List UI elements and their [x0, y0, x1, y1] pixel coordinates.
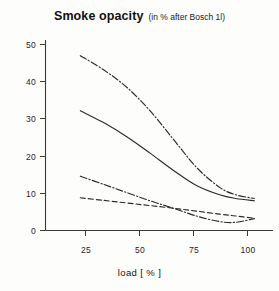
x-ticks-group — [86, 231, 248, 237]
x-tick-label-75: 75 — [180, 245, 208, 255]
y-tick-label-50: 50 — [14, 40, 36, 50]
y-tick-label-20: 20 — [14, 152, 36, 162]
curve-upper-solid — [80, 111, 254, 201]
curves-group — [80, 56, 254, 223]
y-tick-label-30: 30 — [14, 114, 36, 124]
y-tick-label-0: 0 — [14, 226, 36, 236]
chart-figure: Smoke opacity(in % after Bosch 1l) — [0, 0, 279, 291]
x-tick-label-25: 25 — [72, 245, 100, 255]
y-ticks-group — [40, 45, 46, 231]
axes-group — [46, 40, 274, 231]
y-tick-label-40: 40 — [14, 77, 36, 87]
curve-upper-dash-dot — [80, 56, 254, 199]
x-tick-label-100: 100 — [234, 245, 262, 255]
y-tick-label-10: 10 — [14, 189, 36, 199]
x-axis-title: load [ % ] — [0, 267, 279, 278]
curve-lower-dashed — [80, 198, 254, 218]
x-tick-label-50: 50 — [126, 245, 154, 255]
